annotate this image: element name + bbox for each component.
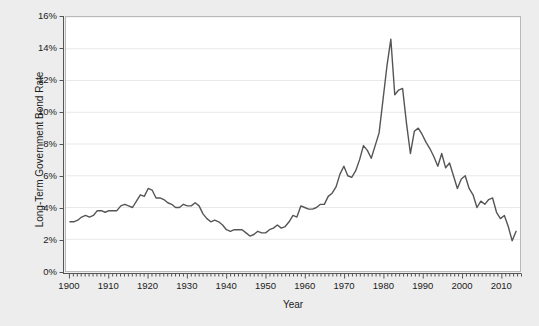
x-tick-label: 1930 (176, 281, 197, 291)
x-tick-label: 1910 (98, 281, 119, 291)
x-tick-label: 1950 (255, 281, 276, 291)
x-tick-label: 1980 (373, 281, 394, 291)
plot-area (65, 16, 521, 272)
x-axis-tick-labels: 1900191019201930194019501960197019801990… (0, 281, 539, 297)
x-tick-label: 1940 (216, 281, 237, 291)
x-tick-label: 1990 (412, 281, 433, 291)
x-axis-title: Year (65, 299, 521, 310)
chart-figure: Long-Term Government Bond Rate 0%2%4%6%8… (0, 0, 539, 326)
x-tick-label: 2010 (491, 281, 512, 291)
x-tick-label: 1900 (58, 281, 79, 291)
x-tick-label: 1970 (334, 281, 355, 291)
x-tick-label: 2000 (451, 281, 472, 291)
bond-rate-line-series (66, 17, 520, 271)
x-tick-label: 1960 (294, 281, 315, 291)
x-tick-label: 1920 (137, 281, 158, 291)
